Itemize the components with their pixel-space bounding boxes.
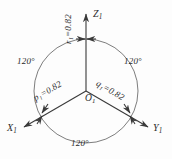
angle-right-label: 120° — [124, 57, 142, 66]
r-value-label: r₁=0.82 — [64, 14, 73, 44]
origin-label: O1 — [85, 94, 96, 104]
y-axis-label: Y1 — [153, 123, 163, 135]
angle-left-label: 120° — [17, 57, 35, 66]
angle-bottom-label: 120° — [71, 139, 89, 148]
z-axis-label: Z1 — [93, 9, 103, 21]
x-axis-label: X1 — [7, 123, 17, 135]
diagram-vector-graphics — [0, 0, 172, 159]
diagram-canvas: Z1 Y1 X1 O1 r₁=0.82 q₁=0.82 p₁=0.82 120°… — [0, 0, 172, 159]
